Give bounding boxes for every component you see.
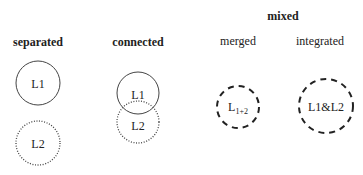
separated-l2-label: L2	[31, 137, 44, 152]
merged-label-subscript: 1+2	[235, 107, 248, 116]
separated-l1-label: L1	[31, 77, 44, 92]
diagram-canvas	[0, 0, 363, 175]
connected-l2-label: L2	[131, 119, 144, 134]
merged-label: L1+2	[228, 100, 248, 116]
integrated-label: L1&L2	[308, 100, 344, 115]
connected-l1-label: L1	[131, 88, 144, 103]
